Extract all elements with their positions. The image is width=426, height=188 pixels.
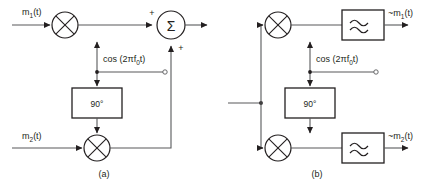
carrier-terminal-a bbox=[163, 70, 167, 74]
label-phase-shift-a: 90° bbox=[91, 99, 104, 109]
label-summer-sigma: Σ bbox=[167, 18, 176, 34]
junction-dot-carrier-a bbox=[95, 70, 99, 74]
lowpass-filter-bottom-b bbox=[342, 133, 384, 163]
wire-input-split-up-b bbox=[261, 25, 263, 103]
qam-block-diagram: m1(t) m2(t) cos (2πf0t) 90° Σ + + (a) co… bbox=[0, 0, 426, 188]
caption-panel-a: (a) bbox=[99, 169, 110, 179]
junction-dot-carrier-b bbox=[308, 70, 312, 74]
label-phase-shift-b: 90° bbox=[304, 99, 317, 109]
panel-b bbox=[228, 10, 408, 163]
label-summer-sign-bottom: + bbox=[178, 43, 183, 53]
mixer-bottom-b bbox=[265, 135, 291, 161]
lowpass-filter-top-b bbox=[342, 10, 384, 40]
label-output-m1: ~m1(t) bbox=[388, 8, 413, 20]
label-summer-sign-top: + bbox=[149, 8, 154, 18]
carrier-terminal-b bbox=[374, 70, 378, 74]
mixer-bottom-a bbox=[84, 135, 110, 161]
label-carrier-b: cos (2πf0t) bbox=[316, 54, 358, 66]
label-output-m2: ~m2(t) bbox=[388, 131, 413, 143]
diagram-canvas: m1(t) m2(t) cos (2πf0t) 90° Σ + + (a) co… bbox=[0, 0, 426, 188]
wire-input-split-down-b bbox=[261, 103, 263, 148]
mixer-top-b bbox=[265, 12, 291, 38]
label-input-m1: m1(t) bbox=[22, 7, 42, 19]
caption-panel-b: (b) bbox=[312, 169, 323, 179]
mixer-top-a bbox=[52, 12, 78, 38]
label-carrier-a: cos (2πf0t) bbox=[103, 54, 145, 66]
label-input-m2: m2(t) bbox=[22, 131, 42, 143]
